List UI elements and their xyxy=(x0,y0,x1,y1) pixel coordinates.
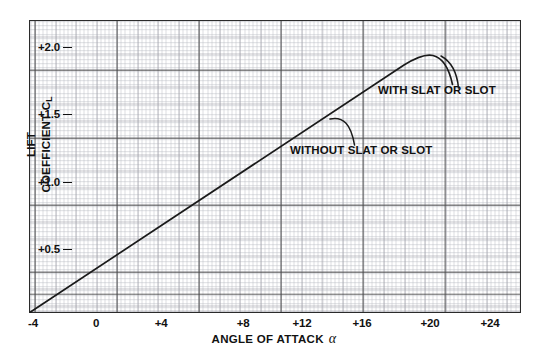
x-tick-plus-12: +12 xyxy=(293,317,312,329)
x-axis-title-text: ANGLE OF ATTACK xyxy=(212,333,324,345)
x-tick-minus-4: -4 xyxy=(28,317,38,329)
y-tick-mark xyxy=(63,182,72,183)
x-tick-0: 0 xyxy=(93,317,99,329)
x-tick-plus-24: +24 xyxy=(481,317,500,329)
y-tick-0-5: +0.5 xyxy=(12,243,72,255)
x-tick-plus-20: +20 xyxy=(421,317,440,329)
y-tick-0-5-label: +0.5 xyxy=(38,243,60,255)
annotation-without-slat-or-slot: WITHOUT SLAT OR SLOT xyxy=(290,144,432,156)
x-tick-plus-16: +16 xyxy=(353,317,372,329)
plot-area xyxy=(29,20,521,313)
y-tick-2-0-label: +2.0 xyxy=(38,41,60,53)
x-tick-plus-4: +4 xyxy=(155,317,168,329)
y-tick-2-0: +2.0 xyxy=(12,41,72,53)
x-axis-title: ANGLE OF ATTACKα xyxy=(0,331,548,347)
annotation-with-slat-or-slot: WITH SLAT OR SLOT xyxy=(378,84,496,96)
y-axis-title: LIFT COEFFICIENT CL xyxy=(24,71,57,219)
y-axis-title-line1: LIFT xyxy=(25,132,37,157)
y-axis-subscript: L xyxy=(44,96,54,101)
lift-coefficient-chart: +2.0 +1.5 +1.0 +0.5 -4 0 +4 +8 +12 +16 +… xyxy=(0,0,548,359)
x-tick-plus-8: +8 xyxy=(237,317,250,329)
alpha-symbol: α xyxy=(329,331,337,346)
y-tick-mark xyxy=(63,249,72,250)
y-axis-title-line2: COEFFICIENT C xyxy=(40,102,52,193)
y-tick-mark xyxy=(63,47,72,48)
y-tick-mark xyxy=(63,114,72,115)
